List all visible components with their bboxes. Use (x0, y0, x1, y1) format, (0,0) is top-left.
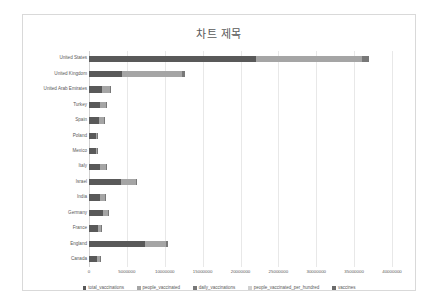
bar-segment[interactable] (110, 86, 111, 92)
bar-segment[interactable] (89, 133, 96, 139)
gridline (392, 51, 393, 267)
bar-segment[interactable] (89, 148, 96, 154)
legend-label: daily_vaccinations (199, 286, 236, 291)
category-axis-labels: United StatesUnited KingdomUnited Arab E… (25, 51, 87, 267)
bar-row[interactable] (89, 241, 392, 247)
bar-row[interactable] (89, 256, 392, 262)
bar-segment[interactable] (89, 179, 121, 185)
axis-tick-label: 5000000 (118, 270, 135, 274)
bar-row[interactable] (89, 56, 392, 62)
legend-item[interactable]: vaccines (332, 286, 355, 291)
bar-segment[interactable] (182, 71, 185, 77)
bar-segment[interactable] (89, 210, 103, 216)
category-label: Turkey (73, 103, 87, 108)
axis-tick-label: 10000000 (155, 270, 175, 274)
category-label: Italy (79, 164, 87, 169)
category-label: Spain (75, 118, 87, 123)
legend-label: total_vaccinations (88, 286, 124, 291)
bar-segment[interactable] (89, 225, 98, 231)
category-label: France (73, 226, 87, 231)
legend-item[interactable]: total_vaccinations (83, 286, 124, 291)
axis-tick-label: 35000000 (344, 270, 364, 274)
bar-segment[interactable] (362, 56, 369, 62)
category-label: United States (59, 56, 87, 61)
legend-item[interactable]: people_vaccinated_per_hundred (248, 286, 319, 291)
bar-segment[interactable] (89, 164, 100, 170)
bar-row[interactable] (89, 117, 392, 123)
bar-segment[interactable] (89, 194, 100, 200)
category-label: Germany (68, 211, 87, 216)
bar-row[interactable] (89, 133, 392, 139)
chart-title: 차트 제목 (23, 25, 415, 41)
bar-row[interactable] (89, 86, 392, 92)
bar-row[interactable] (89, 210, 392, 216)
legend-label: people_vaccinated_per_hundred (254, 286, 320, 291)
legend-swatch-icon (193, 286, 197, 290)
category-label: India (77, 195, 87, 200)
bar-segment[interactable] (136, 179, 137, 185)
chart-legend: total_vaccinationspeople_vaccinateddaily… (23, 286, 415, 291)
category-label: Poland (73, 134, 87, 139)
category-label: England (70, 242, 87, 247)
bar-segment[interactable] (89, 241, 145, 247)
bar-row[interactable] (89, 148, 392, 154)
axis-tick-label: 15000000 (193, 270, 213, 274)
bar-segment[interactable] (121, 179, 136, 185)
bar-row[interactable] (89, 102, 392, 108)
bar-row[interactable] (89, 194, 392, 200)
chart-container: 차트 제목 United StatesUnited KingdomUnited … (22, 14, 416, 291)
axis-tick-label: 40000000 (382, 270, 402, 274)
bar-segment[interactable] (89, 117, 99, 123)
legend-swatch-icon (83, 286, 87, 290)
axis-tick-label: 30000000 (306, 270, 326, 274)
axis-tick-label: 20000000 (231, 270, 251, 274)
bar-segment[interactable] (256, 56, 362, 62)
bar-segment[interactable] (166, 241, 168, 247)
legend-label: people_vaccinated (143, 286, 181, 291)
legend-item[interactable]: people_vaccinated (137, 286, 180, 291)
bar-row[interactable] (89, 179, 392, 185)
bar-series-group (89, 51, 392, 267)
bar-row[interactable] (89, 164, 392, 170)
legend-swatch-icon (248, 286, 252, 290)
category-label: Mexico (72, 149, 87, 154)
bar-segment[interactable] (89, 256, 97, 262)
bar-segment[interactable] (89, 71, 122, 77)
value-axis-labels: 0500000010000000150000002000000025000000… (89, 270, 392, 280)
category-label: United Kingdom (54, 72, 87, 77)
bar-segment[interactable] (102, 86, 110, 92)
bar-segment[interactable] (89, 86, 102, 92)
bar-row[interactable] (89, 71, 392, 77)
category-label: Canada (71, 257, 87, 262)
axis-tick-label: 25000000 (269, 270, 289, 274)
legend-label: vaccines (338, 286, 356, 291)
axis-tick-label: 0 (88, 270, 90, 274)
legend-item[interactable]: daily_vaccinations (193, 286, 235, 291)
plot-area (89, 51, 392, 267)
category-label: United Arab Emirates (44, 87, 87, 92)
bar-segment[interactable] (122, 71, 183, 77)
bar-row[interactable] (89, 225, 392, 231)
bar-segment[interactable] (89, 102, 100, 108)
category-label: Israel (76, 180, 87, 185)
legend-swatch-icon (137, 286, 141, 290)
bar-segment[interactable] (89, 56, 256, 62)
bar-segment[interactable] (145, 241, 166, 247)
legend-swatch-icon (332, 286, 336, 290)
